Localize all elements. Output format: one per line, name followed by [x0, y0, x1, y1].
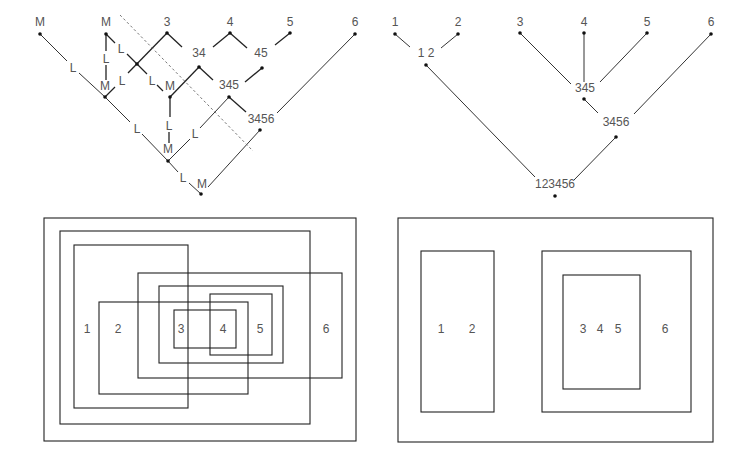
leaf-label: 5	[644, 15, 651, 29]
set-label: 1	[438, 322, 445, 336]
set-label: 6	[662, 322, 669, 336]
leaf-label: 3	[164, 15, 171, 29]
edge-label-l: L	[166, 119, 173, 133]
set-box	[74, 245, 188, 408]
edge	[213, 33, 230, 47]
leaf-label: 2	[455, 15, 462, 29]
top-right-tree: 1 2 3 4 5 6 1 2 345 3456 123456	[392, 15, 715, 198]
node-dot	[103, 95, 107, 99]
node-dot	[582, 97, 586, 101]
edge	[584, 99, 598, 113]
set-box	[421, 251, 494, 412]
leaf-label: 3	[517, 15, 524, 29]
edge	[128, 33, 167, 73]
edge-label-l: L	[192, 127, 199, 141]
node-dot	[104, 32, 108, 36]
edge	[229, 97, 246, 112]
edge	[426, 65, 535, 177]
node-dot	[645, 31, 649, 35]
leaf-label: 6	[708, 15, 715, 29]
node-dot	[197, 65, 201, 69]
node-dot	[614, 135, 618, 139]
edge	[137, 64, 147, 74]
set-label: 5	[615, 322, 622, 336]
set-label: 5	[257, 322, 264, 336]
leaf-label: M	[35, 15, 45, 29]
edge	[157, 85, 163, 91]
set-box	[138, 273, 342, 378]
edge	[199, 67, 213, 80]
edge	[106, 34, 115, 43]
edge	[105, 97, 130, 122]
node-dot	[393, 32, 397, 36]
edge	[40, 34, 67, 61]
node-label: 3456	[248, 112, 275, 126]
node-dot	[456, 32, 460, 36]
edge	[520, 33, 571, 84]
edge	[441, 34, 458, 48]
node-dot	[582, 31, 586, 35]
edge	[208, 130, 260, 187]
node-dot	[288, 31, 292, 35]
node-dot	[165, 31, 169, 35]
node-dot	[228, 31, 232, 35]
edge-label-l: L	[134, 122, 141, 136]
edge-label-m: M	[197, 177, 207, 191]
node-dot	[199, 192, 203, 196]
node-dot	[424, 63, 428, 67]
top-left-derivation-tree: M M 3 4 5 6 34 45 345 3456 L L L L M L M…	[35, 15, 359, 196]
set-label: 2	[469, 322, 476, 336]
bottom-right-nested-sets: 1 2 3 4 5 6	[398, 218, 713, 442]
edge-label-m: M	[163, 142, 173, 156]
edge	[167, 33, 182, 47]
node-label: 345	[575, 81, 595, 95]
set-label: 4	[220, 322, 227, 336]
edge-label-l: L	[70, 61, 77, 75]
leaf-label: M	[101, 15, 111, 29]
node-label: 123456	[535, 177, 575, 191]
edge	[230, 33, 247, 48]
node-dot	[166, 159, 170, 163]
node-dot	[258, 128, 262, 132]
node-dot	[553, 194, 557, 198]
node-dot	[353, 32, 357, 36]
edge	[275, 33, 290, 45]
node-label: 34	[192, 46, 206, 60]
node-label: 345	[219, 78, 239, 92]
edge	[127, 54, 137, 64]
leaf-label: 6	[352, 15, 359, 29]
set-label: 3	[178, 322, 185, 336]
leaf-label: 4	[227, 15, 234, 29]
node-label: 45	[254, 46, 268, 60]
node-dot	[168, 95, 172, 99]
node-label: 3456	[603, 115, 630, 129]
edge	[634, 34, 711, 114]
edge	[277, 34, 355, 113]
edge	[600, 33, 647, 82]
leaf-label: 5	[287, 15, 294, 29]
leaf-label: 1	[392, 15, 399, 29]
set-label: 6	[323, 322, 330, 336]
edge-label-l: L	[119, 74, 126, 88]
set-label: 1	[84, 322, 91, 336]
set-label: 3	[580, 322, 587, 336]
node-dot	[38, 32, 42, 36]
edge	[168, 161, 178, 172]
edge-label-l: L	[149, 74, 156, 88]
node-dot	[709, 32, 713, 36]
edge-label-m: M	[165, 79, 175, 93]
edge	[245, 68, 262, 82]
edge-label-l: L	[118, 42, 125, 56]
edge	[395, 34, 410, 47]
edge-label-l: L	[180, 171, 187, 185]
edge-label-m: M	[100, 79, 110, 93]
node-dot	[260, 66, 264, 70]
node-dot	[227, 95, 231, 99]
set-label: 4	[597, 322, 604, 336]
diagram-canvas: M M 3 4 5 6 34 45 345 3456 L L L L M L M…	[0, 0, 739, 454]
edge-label-l: L	[103, 52, 110, 66]
set-label: 2	[115, 322, 122, 336]
node-dot	[518, 31, 522, 35]
bottom-left-overlapping-sets: 1 2 3 4 5 6	[44, 218, 356, 441]
leaf-label: 4	[581, 15, 588, 29]
